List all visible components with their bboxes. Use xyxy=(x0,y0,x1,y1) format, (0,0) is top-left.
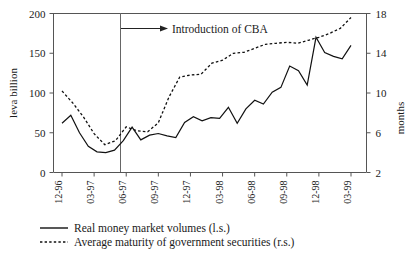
x-tick-label: 03-98 xyxy=(214,181,225,204)
legend: Real money market volumes (l.s.) Average… xyxy=(40,222,295,249)
y-tick-label-right: 18 xyxy=(376,8,388,20)
y-tick-label-right: 2 xyxy=(376,167,382,179)
y-tick-label-right: 14 xyxy=(376,47,388,59)
x-tick-label: 12-96 xyxy=(53,181,64,204)
x-tick-label: 12-98 xyxy=(310,181,321,204)
y-tick-label-left: 200 xyxy=(29,8,46,20)
x-tick-label: 09-97 xyxy=(149,181,160,204)
y-ticks-left: 050100150200 xyxy=(29,8,54,179)
x-tick-label: 12-97 xyxy=(181,181,192,204)
x-tick-label: 06-98 xyxy=(246,181,257,204)
y-tick-label-right: 6 xyxy=(376,127,382,139)
x-tick-label: 03-99 xyxy=(342,181,353,204)
y-tick-label-left: 0 xyxy=(40,167,46,179)
y-axis-left-label: leva billion xyxy=(7,68,19,118)
y-tick-label-right: 10 xyxy=(376,87,388,99)
series-money-market-volumes xyxy=(62,37,351,152)
y-tick-label-left: 100 xyxy=(29,87,46,99)
legend-label-0: Real money market volumes (l.s.) xyxy=(74,222,230,235)
x-tick-label: 06-97 xyxy=(117,181,128,204)
x-ticks: 12-9603-9706-9709-9712-9703-9806-9809-98… xyxy=(53,173,353,204)
legend-label-1: Average maturity of government securitie… xyxy=(74,236,295,249)
y-axis-right-label: months xyxy=(394,102,406,134)
x-tick-label: 03-97 xyxy=(85,181,96,204)
annotation-arrow xyxy=(121,26,168,32)
y-tick-label-left: 150 xyxy=(29,47,46,59)
y-tick-label-left: 50 xyxy=(35,127,47,139)
annotation-label: Introduction of CBA xyxy=(172,23,269,35)
axes-group xyxy=(54,13,367,173)
chart-svg: 050100150200 26101418 12-9603-9706-9709-… xyxy=(0,0,416,256)
y-ticks-right: 26101418 xyxy=(367,8,388,179)
chart-figure: 050100150200 26101418 12-9603-9706-9709-… xyxy=(0,0,416,256)
x-tick-label: 09-98 xyxy=(278,181,289,204)
